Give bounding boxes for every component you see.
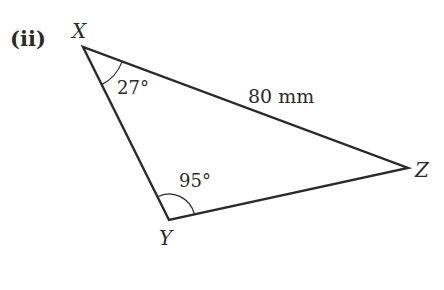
- vertex-label-z: Z: [414, 158, 430, 182]
- triangle-diagram: (ii) X Y Z 27° 95° 80 mm: [0, 0, 444, 290]
- side-label-xz: 80 mm: [248, 85, 314, 107]
- vertex-label-y: Y: [159, 226, 174, 250]
- part-label: (ii): [10, 26, 46, 51]
- angle-label-x: 27°: [117, 77, 149, 98]
- vertex-label-x: X: [70, 19, 87, 43]
- angle-label-y: 95°: [179, 170, 211, 191]
- angle-arc-y: [158, 194, 195, 214]
- triangle-xyz: [83, 47, 408, 220]
